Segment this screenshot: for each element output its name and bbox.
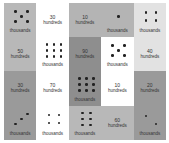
dot-icon-group <box>140 8 160 26</box>
dot-icon <box>123 54 126 57</box>
dot-icon <box>58 122 61 125</box>
unit-label: hundreds <box>43 20 62 26</box>
dot-cell: thousands <box>69 71 101 105</box>
dot-icon <box>58 114 61 117</box>
dot-icon <box>155 11 158 14</box>
dot-icon <box>89 124 92 127</box>
dot-icon <box>14 123 17 126</box>
dot-icon <box>92 89 95 92</box>
dot-icon <box>111 54 114 57</box>
dot-cell: thousands <box>69 106 101 140</box>
dot-icon <box>145 11 148 14</box>
unit-label: hundreds <box>140 88 159 94</box>
unit-label: thousands <box>101 62 133 67</box>
unit-label: hundreds <box>76 20 95 26</box>
dot-icon <box>92 77 95 80</box>
dot-icon <box>81 112 84 115</box>
dot-icon-group <box>140 111 160 129</box>
dot-cell: thousands <box>134 3 166 37</box>
unit-label: thousands <box>4 131 36 136</box>
dot-icon <box>53 55 56 58</box>
unit-label: hundreds <box>11 88 30 94</box>
dot-icon <box>78 89 81 92</box>
dot-icon <box>81 118 84 121</box>
dot-icon-group <box>107 8 127 26</box>
dot-cell: thousands <box>4 3 36 37</box>
dot-icon-group <box>10 111 30 129</box>
unit-label: thousands <box>69 131 101 136</box>
dot-icon <box>53 49 56 52</box>
dot-icon <box>53 43 56 46</box>
domino-tile[interactable]: 30hundredsthousands <box>36 3 68 71</box>
dot-icon <box>123 44 126 47</box>
dot-icon <box>92 83 95 86</box>
dot-icon <box>26 10 29 13</box>
dot-icon-group <box>75 111 95 129</box>
dot-icon <box>85 77 88 80</box>
dot-icon-group <box>43 111 63 129</box>
dot-icon <box>89 118 92 121</box>
domino-tile[interactable]: 90hundredsthousands <box>69 37 101 105</box>
dot-icon-group <box>75 76 95 94</box>
dot-icon <box>60 55 63 58</box>
dot-icon <box>85 83 88 86</box>
domino-tile[interactable]: 70hundredsthousands <box>36 71 68 139</box>
dot-icon <box>78 83 81 86</box>
dot-icon <box>20 118 23 121</box>
unit-label: thousands <box>36 131 68 136</box>
number-cell: 30hundreds <box>36 3 68 37</box>
unit-label: thousands <box>69 97 101 102</box>
dot-icon <box>117 49 120 52</box>
unit-label: thousands <box>36 62 68 67</box>
number-cell: 90hundreds <box>69 37 101 71</box>
dot-cell: thousands <box>101 3 133 37</box>
dot-icon <box>145 19 148 22</box>
dot-icon <box>89 112 92 115</box>
dot-icon <box>46 49 49 52</box>
number-cell: 50hundreds <box>4 37 36 71</box>
number-cell: 70hundreds <box>36 71 68 105</box>
unit-label: hundreds <box>76 54 95 60</box>
domino-tile[interactable]: 30hundredsthousands <box>4 71 36 139</box>
dot-icon <box>155 123 158 126</box>
dot-icon <box>26 113 29 116</box>
dot-icon <box>60 49 63 52</box>
number-cell: 20hundreds <box>134 71 166 105</box>
unit-label: hundreds <box>43 88 62 94</box>
unit-label: hundreds <box>11 54 30 60</box>
domino-tile[interactable]: thousands60hundreds <box>69 106 134 140</box>
dot-icon <box>78 77 81 80</box>
number-cell: 10hundreds <box>101 71 133 105</box>
dot-icon <box>14 10 17 13</box>
dot-icon <box>46 43 49 46</box>
domino-tile[interactable]: 20hundredsthousands <box>134 71 166 139</box>
dot-icon <box>85 89 88 92</box>
dot-cell: thousands <box>36 37 68 71</box>
dot-icon <box>81 124 84 127</box>
unit-label: hundreds <box>108 123 127 129</box>
dot-icon <box>20 15 23 18</box>
unit-label: thousands <box>101 28 133 33</box>
domino-board: thousands50hundreds30hundredsthousands10… <box>0 0 169 143</box>
dot-icon <box>26 20 29 23</box>
dot-icon <box>46 55 49 58</box>
dot-icon-group <box>43 42 63 60</box>
unit-label: hundreds <box>140 54 159 60</box>
dot-cell: thousands <box>4 106 36 140</box>
dot-icon <box>117 15 120 18</box>
unit-label: hundreds <box>108 88 127 94</box>
domino-tile[interactable]: thousands10hundreds <box>101 37 133 105</box>
dot-icon <box>145 115 148 118</box>
domino-tile[interactable]: thousands50hundreds <box>4 3 36 71</box>
number-cell: 40hundreds <box>134 37 166 71</box>
dot-icon <box>111 44 114 47</box>
domino-tile[interactable]: 10hundredsthousands <box>69 3 134 37</box>
dot-icon <box>48 114 51 117</box>
dot-icon <box>48 122 51 125</box>
unit-label: thousands <box>134 131 166 136</box>
number-cell: 10hundreds <box>69 3 101 37</box>
dot-cell: thousands <box>36 106 68 140</box>
domino-tile[interactable]: thousands40hundreds <box>134 3 166 71</box>
unit-label: thousands <box>134 28 166 33</box>
dot-icon-group <box>10 8 30 26</box>
